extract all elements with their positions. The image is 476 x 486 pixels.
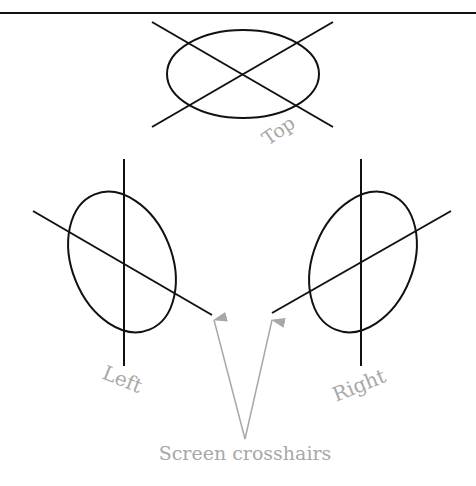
- right-label: Right: [329, 364, 389, 407]
- left-label: Left: [99, 360, 146, 397]
- top-view: Top: [152, 22, 333, 149]
- arrow-left: [214, 320, 245, 439]
- left-view: Left: [33, 159, 212, 398]
- crosshair-diagram: Top Left Right Screen crosshairs: [0, 0, 476, 486]
- arrow-right: [245, 320, 272, 439]
- left-diagonal-line: [33, 211, 212, 315]
- right-view: Right: [272, 159, 451, 407]
- crosshair-arrows: [214, 320, 272, 439]
- caption-label: Screen crosshairs: [159, 442, 332, 464]
